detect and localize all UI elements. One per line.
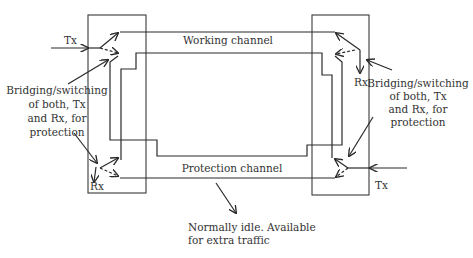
left-node-box xyxy=(88,15,146,193)
right-bridge-to-protection-dashed-arrow xyxy=(336,168,348,177)
left-bridge-to-protection-dashed-arrow xyxy=(100,48,118,53)
right-annotation-line-3: and Rx, for xyxy=(389,103,449,115)
left-rx-select-protection-dashed-arrow xyxy=(100,168,118,176)
protection-channel-label: Protection channel xyxy=(182,162,283,174)
left-bridge-to-working-arrow xyxy=(100,33,118,48)
left-rx-label: Rx xyxy=(90,180,104,192)
right-annotation-line-2: of both, Tx xyxy=(389,90,446,102)
left-rx-select-working-arrow xyxy=(100,158,118,168)
right-annotation-line-1: Bridging/switching xyxy=(367,77,469,89)
left-annotation-line-4: protection xyxy=(29,126,84,138)
idle-note-arrow xyxy=(216,183,236,213)
right-rx-select-protection-dashed-arrow xyxy=(336,50,355,54)
outer-stepped-path xyxy=(110,56,342,156)
left-annotation-line-2: of both, Tx xyxy=(28,98,85,110)
left-annotation-line-1: Bridging/switching xyxy=(6,84,108,96)
left-annotation-line-3: and Rx, for xyxy=(28,112,88,124)
protection-note-line-2: for extra traffic xyxy=(188,234,270,246)
left-tx-label: Tx xyxy=(64,34,77,46)
protection-note: Normally idle. Available for extra traff… xyxy=(188,221,316,246)
right-rx-select-working-arrow xyxy=(336,33,360,50)
right-annotation-arrow-top xyxy=(367,60,392,70)
protection-switching-diagram: Working channel Protection channel Tx Rx… xyxy=(0,0,473,258)
left-annotation: Bridging/switching of both, Tx and Rx, f… xyxy=(6,84,108,138)
right-bridge-to-working-arrow xyxy=(335,159,348,168)
right-annotation: Bridging/switching of both, Tx and Rx, f… xyxy=(367,77,469,128)
protection-note-line-1: Normally idle. Available xyxy=(188,221,316,233)
inner-stepped-path xyxy=(121,53,332,160)
working-channel-label: Working channel xyxy=(183,34,274,46)
right-rx-label: Rx xyxy=(354,76,368,88)
right-annotation-line-4: protection xyxy=(390,116,445,128)
right-tx-label: Tx xyxy=(375,179,388,191)
